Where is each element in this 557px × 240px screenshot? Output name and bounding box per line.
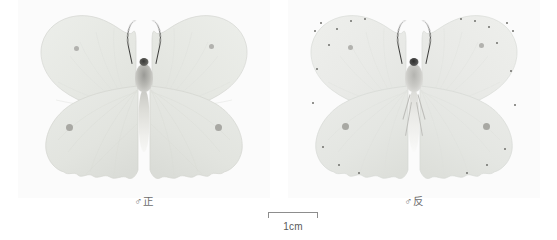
forewing-spot-left [348,45,353,50]
specimen-plate: ♂正 [0,0,557,240]
panel-inner-dorsal [18,0,270,198]
specimen-panel-ventral: ♂反 [288,0,540,198]
head [140,58,149,66]
body-dorsal [127,36,161,186]
specimen-label-ventral: ♂反 [288,194,540,208]
forewing-spot-right [209,44,214,49]
hindwing-spot-right [483,123,490,130]
forewing-spot-right [479,43,484,48]
abdomen [139,90,150,152]
scale-bar-rule [268,212,318,218]
body-ventral [397,36,431,186]
specimen-label-dorsal: ♂正 [18,194,270,208]
scale-bar-caption: 1cm [268,221,318,232]
hindwing-spot-left [342,123,349,130]
specimen-panel-dorsal: ♂正 [18,0,270,198]
hindwing-spot-right [215,124,222,131]
butterfly-dorsal [22,6,266,192]
panel-inner-ventral [288,0,540,198]
scale-bar: 1cm [268,208,318,238]
hindwing-spot-left [66,124,73,131]
thorax [135,64,153,92]
thorax [405,64,423,92]
butterfly-ventral [292,6,536,192]
forewing-spot-left [74,46,79,51]
hindwing-right-dorsal [146,84,246,188]
head [410,58,419,66]
